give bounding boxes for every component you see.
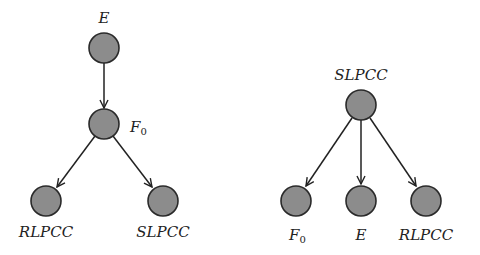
diagram-canvas: E F0 RLPCC SLPCC SLPCC F0 E RLPCC — [0, 0, 480, 255]
edge-slpcc-rlpcc — [370, 118, 416, 186]
right-graph: SLPCC F0 E RLPCC — [281, 66, 454, 245]
left-graph: E F0 RLPCC SLPCC — [18, 9, 190, 241]
node-f0 — [89, 109, 119, 139]
edge-f0-rlpcc — [57, 136, 95, 187]
label-slpcc: SLPCC — [136, 223, 190, 241]
label-f0: F0 — [129, 118, 147, 137]
label-rlpcc: RLPCC — [398, 226, 454, 244]
label-f0: F0 — [288, 226, 306, 245]
label-rlpcc: RLPCC — [18, 223, 74, 241]
edge-f0-slpcc — [113, 136, 152, 187]
label-e: E — [355, 226, 367, 244]
node-e — [89, 33, 119, 63]
node-slpcc — [346, 90, 376, 120]
node-e — [346, 186, 376, 216]
label-slpcc: SLPCC — [334, 66, 388, 84]
node-rlpcc — [31, 186, 61, 216]
node-rlpcc — [411, 186, 441, 216]
node-f0 — [281, 186, 311, 216]
node-slpcc — [148, 186, 178, 216]
edge-slpcc-f0 — [306, 118, 352, 186]
label-e: E — [98, 9, 110, 27]
